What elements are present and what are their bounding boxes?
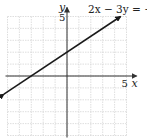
equation-label: 2x − 3y = −6 (88, 3, 147, 15)
y-tick-label: 5 (59, 12, 65, 23)
x-axis-label: x (132, 77, 139, 90)
x-tick-label: 5 (122, 78, 128, 89)
coordinate-plane: y x 5 5 2x − 3y = −6 (0, 0, 147, 139)
graph-figure: y x 5 5 2x − 3y = −6 (0, 0, 147, 139)
